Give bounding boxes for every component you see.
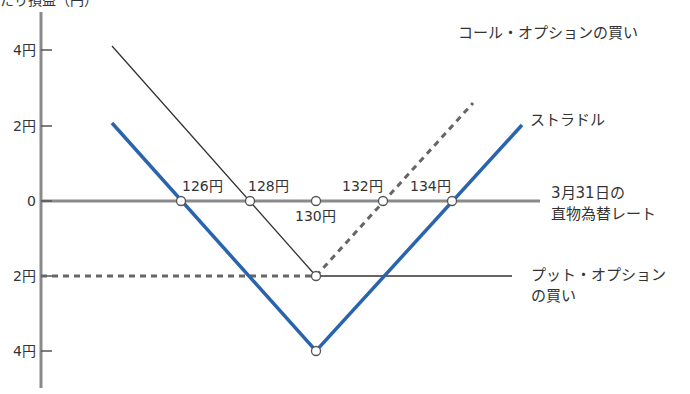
- x-point-label: 126円: [182, 178, 223, 194]
- x-point-label: 134円: [410, 178, 451, 194]
- legend-put-option-line2: の買い: [531, 287, 576, 305]
- series-put-option: [112, 46, 512, 276]
- legend-put-option-line1: プット・オプション: [531, 266, 666, 284]
- legend-call-option: コール・オプションの買い: [458, 24, 638, 42]
- y-tick-label: 2円: [0, 268, 36, 284]
- y-ticks: [41, 50, 52, 351]
- x-axis-title-line1: 3月31日の: [551, 184, 625, 202]
- y-axis-title: たり損益（円）: [0, 0, 98, 8]
- y-tick-label: 4円: [0, 42, 36, 58]
- x-axis-title-line2: 直物為替レート: [551, 205, 656, 223]
- x-point-label: 132円: [342, 178, 383, 194]
- y-tick-label: 2円: [0, 118, 36, 134]
- legend-straddle: ストラドル: [530, 111, 605, 129]
- y-tick-label: 0: [0, 193, 36, 209]
- x-point-label: 128円: [248, 178, 289, 194]
- x-point-label: 130円: [295, 208, 336, 224]
- y-tick-label: 4円: [0, 343, 36, 359]
- series-straddle: [112, 123, 522, 351]
